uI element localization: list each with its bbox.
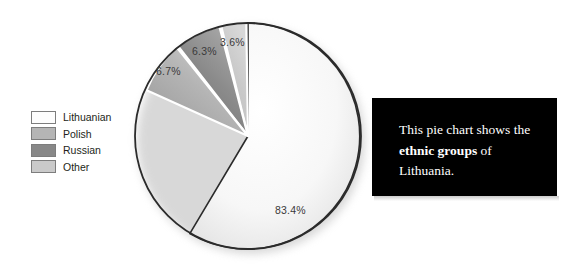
- pie-chart-figure: Lithuanian Polish Russian Other: [0, 0, 585, 278]
- callout-text-before: This pie chart shows the: [399, 122, 530, 137]
- callout-box: This pie chart shows the ethnic groups o…: [372, 98, 557, 196]
- legend-label-other: Other: [63, 162, 89, 173]
- callout-text: This pie chart shows the ethnic groups o…: [399, 120, 544, 182]
- legend-item-russian: Russian: [31, 142, 151, 159]
- callout-text-bold: ethnic groups: [399, 143, 477, 158]
- legend-item-lithuanian: Lithuanian: [31, 109, 151, 126]
- legend-swatch-lithuanian: [31, 111, 56, 124]
- legend-swatch-russian: [31, 144, 56, 157]
- pie-label-lithuanian: 83.4%: [275, 204, 306, 216]
- callout-shadow: [374, 196, 559, 201]
- legend-swatch-other: [31, 160, 56, 173]
- legend-swatch-polish: [31, 127, 56, 140]
- chart-legend: Lithuanian Polish Russian Other: [31, 109, 151, 175]
- pie-label-polish: 6.7%: [156, 65, 181, 77]
- legend-item-polish: Polish: [31, 126, 151, 143]
- pie-slices: [134, 22, 362, 250]
- legend-label-polish: Polish: [63, 129, 92, 140]
- pie-chart: 3.6% 6.3% 6.7% 83.4%: [134, 22, 362, 250]
- legend-item-other: Other: [31, 159, 151, 176]
- legend-label-russian: Russian: [63, 145, 101, 156]
- pie-label-other: 3.6%: [220, 36, 245, 48]
- legend-label-lithuanian: Lithuanian: [63, 112, 111, 123]
- pie-label-russian: 6.3%: [192, 45, 217, 57]
